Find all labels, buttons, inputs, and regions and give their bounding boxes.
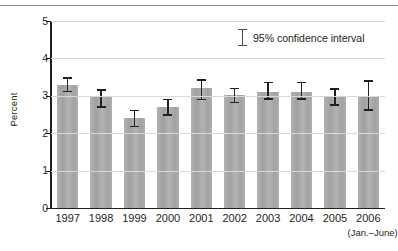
x-axis-tick-labels: 1997199819992000200120022003200420052006 — [51, 211, 385, 227]
plot-area — [51, 21, 385, 208]
bar-1998 — [90, 96, 112, 208]
x-tick-label-2001: 2001 — [185, 211, 218, 226]
x-tick-label-2000: 2000 — [151, 211, 184, 226]
y-tick-mark-2 — [46, 133, 51, 134]
x-tick-label-2003: 2003 — [251, 211, 284, 226]
error-bar-icon — [238, 29, 247, 46]
error-bar-2000 — [163, 99, 172, 116]
gridline-2 — [51, 133, 385, 134]
bar-2004 — [291, 92, 313, 208]
x-tick-label-2006: 2006 — [352, 211, 385, 226]
bar-2000 — [157, 107, 179, 208]
error-bar-2003 — [264, 82, 273, 100]
x-tick-label-2002: 2002 — [218, 211, 251, 226]
error-bar-2004 — [297, 82, 306, 100]
bar-2003 — [257, 92, 279, 208]
bar-2005 — [324, 96, 346, 208]
y-tick-mark-0 — [46, 208, 51, 209]
y-tick-mark-5 — [46, 21, 51, 22]
legend-label: 95% confidence interval — [253, 32, 365, 44]
error-bar-1998 — [97, 89, 106, 107]
legend: 95% confidence interval — [238, 29, 365, 46]
x-tick-label-1999: 1999 — [118, 211, 151, 226]
bar-2002 — [224, 95, 246, 208]
chart-figure: Percent 012345 1997199819992000200120022… — [0, 0, 398, 251]
gridline-4 — [51, 58, 385, 59]
y-axis-label: Percent — [8, 80, 19, 140]
y-tick-mark-3 — [46, 96, 51, 97]
gridline-3 — [51, 96, 385, 97]
bar-2006 — [358, 96, 380, 208]
error-bar-2001 — [197, 79, 206, 100]
top-rule-divider — [0, 5, 398, 6]
x-tick-label-1998: 1998 — [84, 211, 117, 226]
y-tick-mark-1 — [46, 171, 51, 172]
error-bar-1999 — [130, 110, 139, 128]
gridline-1 — [51, 171, 385, 172]
gridline-5 — [51, 21, 385, 22]
y-axis-tick-labels: 012345 — [24, 0, 48, 251]
x-tick-label-1997: 1997 — [51, 211, 84, 226]
error-bar-1997 — [63, 77, 72, 92]
error-bar-2005 — [330, 88, 339, 106]
bar-1997 — [57, 85, 79, 208]
bar-2001 — [191, 88, 213, 208]
x-tick-label-2005: 2005 — [318, 211, 351, 226]
bar-1999 — [124, 118, 146, 208]
x-tick-label-2004: 2004 — [285, 211, 318, 226]
x-tick-subnote-2006: (Jan.–June) — [348, 227, 389, 239]
y-tick-mark-4 — [46, 58, 51, 59]
